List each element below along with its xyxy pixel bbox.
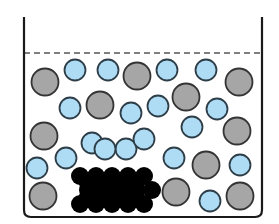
gray-particle: [193, 152, 220, 179]
blue-particle: [98, 60, 119, 81]
blue-particle: [182, 117, 203, 138]
blue-particle: [95, 139, 116, 160]
gray-particle: [31, 123, 58, 150]
solid-particle: [95, 188, 113, 206]
blue-particle: [65, 60, 86, 81]
gray-particle: [87, 92, 114, 119]
blue-particle: [164, 148, 185, 169]
gray-particle: [227, 183, 254, 210]
gray-particle: [163, 179, 190, 206]
blue-particle: [27, 158, 48, 179]
solid-particle: [127, 188, 145, 206]
blue-particle: [230, 155, 251, 176]
blue-particle: [121, 103, 142, 124]
solid-particle: [79, 188, 97, 206]
blue-particle: [148, 96, 169, 117]
blue-particle: [207, 99, 228, 120]
blue-particle: [196, 60, 217, 81]
blue-particle: [134, 129, 155, 150]
blue-particle: [56, 148, 77, 169]
blue-particle: [200, 191, 221, 212]
blue-particle: [60, 98, 81, 119]
gray-particle: [124, 63, 151, 90]
gray-particle: [30, 183, 57, 210]
gray-particle: [173, 84, 200, 111]
solution-diagram: [0, 0, 279, 224]
blue-particle: [157, 60, 178, 81]
gray-particle: [226, 69, 253, 96]
solid-crystal-lattice: [71, 167, 161, 213]
gray-particle: [224, 118, 251, 145]
solid-particle: [111, 188, 129, 206]
gray-particle: [32, 69, 59, 96]
